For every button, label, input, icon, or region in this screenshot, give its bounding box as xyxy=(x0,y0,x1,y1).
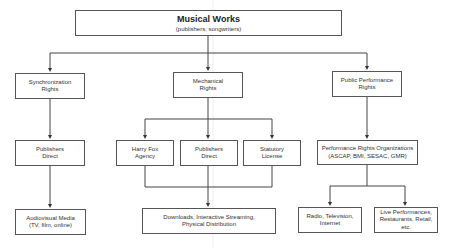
box-line: Downloads, Interactive Streaming, xyxy=(163,214,254,222)
box-line: (TV, film, online) xyxy=(29,222,72,230)
box-line: etc. xyxy=(401,224,411,232)
public-performance-rights-box: Public Performance Rights xyxy=(332,71,402,97)
box-line: Rights xyxy=(358,84,375,92)
box-line: Harry Fox xyxy=(132,146,158,154)
radio-television-internet-box: Radio, Television, Internet xyxy=(298,207,362,233)
box-line: Publishers xyxy=(36,146,64,154)
downloads-streaming-box: Downloads, Interactive Streaming, Physic… xyxy=(142,208,276,234)
box-line: Radio, Television, xyxy=(307,213,354,221)
box-line: (ASCAP, BMI, SESAC, GMR) xyxy=(328,153,407,161)
box-line: Mechanical xyxy=(193,78,223,86)
statutory-license-box: Statutory License xyxy=(243,140,301,166)
box-line: Restaurants, Retail, xyxy=(380,216,433,224)
box-line: Agency xyxy=(135,153,155,161)
box-line: Synchronization xyxy=(29,79,72,87)
mechanical-rights-box: Mechanical Rights xyxy=(173,72,243,98)
box-line: Rights xyxy=(199,85,216,93)
box-line: License xyxy=(262,153,283,161)
box-line: Statutory xyxy=(260,146,284,154)
box-line: Rights xyxy=(41,86,58,94)
harry-fox-agency-box: Harry Fox Agency xyxy=(116,140,174,166)
box-line: Audiovisual Media xyxy=(26,215,75,223)
root-title: Musical Works xyxy=(177,14,240,25)
musical-works-box: Musical Works (publishers; songwriters) xyxy=(75,10,342,36)
box-line: Direct xyxy=(201,153,217,161)
root-subtitle: (publishers; songwriters) xyxy=(176,25,241,33)
synchronization-rights-box: Synchronization Rights xyxy=(15,73,85,99)
box-line: Internet xyxy=(320,220,340,228)
box-line: Physical Distribution xyxy=(182,221,236,229)
live-performances-box: Live Performances, Restaurants, Retail, … xyxy=(374,207,438,233)
audiovisual-media-box: Audiovisual Media (TV, film, online) xyxy=(15,209,86,235)
publishers-direct-mech-box: Publishers Direct xyxy=(180,140,238,166)
publishers-direct-sync-box: Publishers Direct xyxy=(15,140,85,166)
box-line: Direct xyxy=(42,153,58,161)
musical-works-rights-diagram: Musical Works (publishers; songwriters) … xyxy=(0,0,449,248)
box-line: Public Performance xyxy=(341,77,393,85)
performance-rights-organizations-box: Performance Rights Organizations (ASCAP,… xyxy=(317,140,418,165)
box-line: Performance Rights Organizations xyxy=(322,145,414,153)
box-line: Live Performances, xyxy=(380,209,432,217)
box-line: Publishers xyxy=(195,146,223,154)
